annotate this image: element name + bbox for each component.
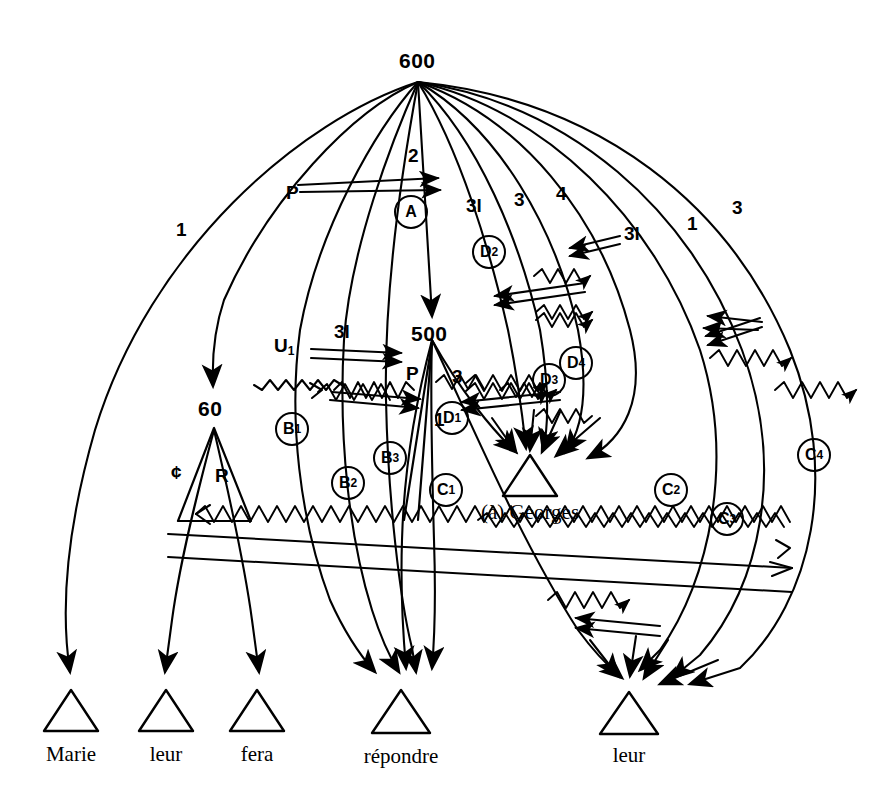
- circle-a: A: [394, 195, 428, 229]
- circle-b2-sub: 2: [350, 476, 357, 490]
- circle-c2: C2: [654, 473, 688, 507]
- edge-label-1-right: 1: [687, 214, 698, 233]
- leaf-label-leur-1: leur: [116, 742, 216, 767]
- circle-c3-sub: 3: [729, 512, 736, 526]
- circle-b1-sub: 1: [294, 422, 301, 436]
- diagram-canvas: 600 500 60 1 P 2 3l 3 4 3l 1 3 3l U1 P 3…: [0, 0, 883, 807]
- edge-label-4: 4: [556, 184, 567, 203]
- edge-label-cent: ¢: [171, 463, 182, 482]
- circle-d3-sub: 3: [551, 373, 558, 387]
- circle-c4-letter: C: [805, 446, 817, 464]
- edge-label-p-mid: P: [406, 364, 419, 383]
- edge-label-u1-sub: 1: [288, 344, 295, 358]
- circle-b3-letter: B: [381, 449, 393, 467]
- leaf-label-georges: (à) Georges: [455, 500, 605, 525]
- circle-d2-letter: D: [480, 243, 492, 261]
- circle-d4-sub: 4: [578, 356, 585, 370]
- circle-c2-letter: C: [662, 481, 674, 499]
- circle-c3-letter: C: [718, 510, 730, 528]
- circle-d1-letter: D: [443, 409, 455, 427]
- leaf-label-leur-2: leur: [579, 743, 679, 768]
- edge-label-1-left: 1: [176, 220, 187, 239]
- edge-label-31-b: 3l: [624, 224, 640, 243]
- circle-d3-letter: D: [540, 371, 552, 389]
- edge-label-p-left: P: [286, 183, 299, 202]
- circle-d4-letter: D: [567, 354, 579, 372]
- edge-label-3-mid: 3: [452, 367, 463, 386]
- circle-c4: C4: [797, 438, 831, 472]
- circle-c2-sub: 2: [673, 483, 680, 497]
- edge-label-3-right: 3: [732, 198, 743, 217]
- circle-d3: D3: [532, 363, 566, 397]
- circle-d2: D2: [472, 235, 506, 269]
- edge-label-r: R: [215, 466, 229, 485]
- edge-label-2: 2: [408, 146, 419, 165]
- circle-b3-sub: 3: [392, 451, 399, 465]
- leaf-label-repondre: répondre: [331, 744, 471, 769]
- edge-label-u1: U1: [274, 336, 294, 357]
- circle-b2-letter: B: [339, 474, 351, 492]
- node-sub-label: 60: [198, 398, 222, 419]
- circle-c3: C3: [710, 502, 744, 536]
- leaf-label-fera: fera: [207, 742, 307, 767]
- edge-label-3-a: 3: [514, 190, 525, 209]
- circle-a-letter: A: [405, 203, 417, 221]
- node-root-label: 600: [399, 50, 436, 71]
- circle-d1: D1: [435, 401, 469, 435]
- leaf-label-marie: Marie: [21, 742, 121, 767]
- circle-d1-sub: 1: [454, 411, 461, 425]
- circle-c1-letter: C: [437, 481, 449, 499]
- edge-label-31-c: 3l: [334, 322, 350, 341]
- circle-b1-letter: B: [283, 420, 295, 438]
- node-mid-label: 500: [411, 323, 448, 344]
- circle-b3: B3: [373, 441, 407, 475]
- circle-b2: B2: [331, 466, 365, 500]
- edge-label-u1-text: U: [274, 335, 288, 356]
- circle-c4-sub: 4: [816, 448, 823, 462]
- circle-c1-sub: 1: [448, 483, 455, 497]
- edge-label-31-a: 3l: [466, 196, 482, 215]
- circle-b1: B1: [275, 412, 309, 446]
- circle-d2-sub: 2: [491, 245, 498, 259]
